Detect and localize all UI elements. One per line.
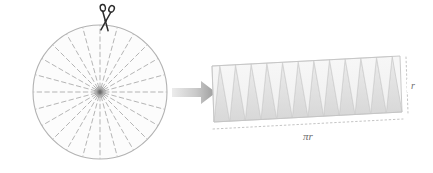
circle-center-dot xyxy=(98,90,102,94)
circle-with-sectors xyxy=(33,25,167,159)
figure-canvas: πr r xyxy=(0,0,433,173)
circle-area-derivation-figure: πr r xyxy=(0,0,433,173)
arrow-shape xyxy=(172,81,216,104)
sector-triangles xyxy=(212,56,402,122)
height-label: r xyxy=(411,80,415,91)
unrolled-sectors-parallelogram: πr r xyxy=(212,56,419,143)
transform-arrow-icon xyxy=(172,81,216,104)
scissors-handle-right xyxy=(108,5,116,13)
base-length-label: πr xyxy=(303,130,314,142)
